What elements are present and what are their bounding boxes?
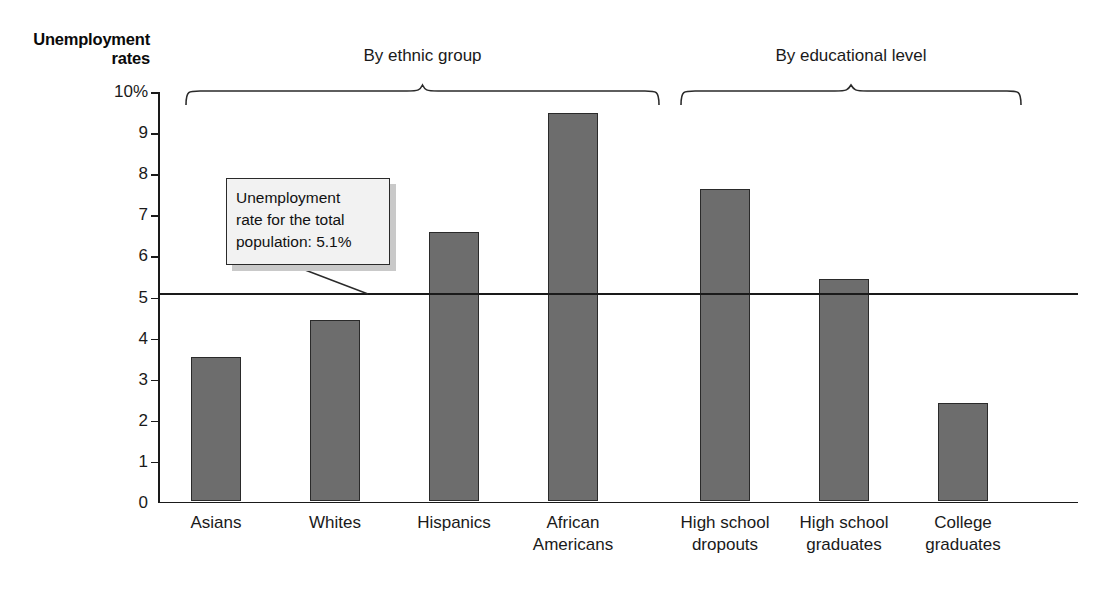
y-tick-label-7: 7 xyxy=(78,205,148,225)
y-tick-label-4: 4 xyxy=(78,329,148,349)
y-tick-mark-3 xyxy=(151,380,159,382)
category-label-college-graduates: College graduates xyxy=(893,512,1033,557)
y-tick-mark-1 xyxy=(151,462,159,464)
y-tick-mark-8 xyxy=(151,174,159,176)
y-axis-title-line-2: rates xyxy=(20,49,150,68)
callout-text: Unemployment rate for the total populati… xyxy=(236,187,384,253)
callout-text-line-1: Unemployment xyxy=(236,187,384,209)
y-axis-title-line-1: Unemployment xyxy=(20,30,150,49)
callout-text-line-3: population: 5.1% xyxy=(236,231,384,253)
category-label-african-americans: African Americans xyxy=(503,512,643,557)
y-axis-tick-labels: 10% 9 8 7 6 5 4 3 2 1 0 xyxy=(72,92,148,503)
y-tick-mark-5 xyxy=(151,298,159,300)
y-tick-label-1: 1 xyxy=(78,452,148,472)
group-label-education: By educational level xyxy=(680,46,1022,66)
bar-african-americans xyxy=(548,113,598,501)
category-label-college-graduates-line-1: College xyxy=(893,512,1033,534)
y-tick-mark-2 xyxy=(151,421,159,423)
bar-high-school-graduates xyxy=(819,279,869,501)
category-label-african-americans-line-2: Americans xyxy=(503,534,643,556)
y-tick-mark-4 xyxy=(151,339,159,341)
y-tick-label-2: 2 xyxy=(78,411,148,431)
y-tick-label-3: 3 xyxy=(78,370,148,390)
group-label-education-text: By educational level xyxy=(775,46,926,65)
x-axis-category-labels: Asians Whites Hispanics African American… xyxy=(158,512,1078,582)
y-axis-title: Unemployment rates xyxy=(20,30,150,69)
y-tick-mark-7 xyxy=(151,215,159,217)
y-tick-label-8: 8 xyxy=(78,164,148,184)
y-tick-mark-10 xyxy=(151,92,159,94)
group-label-ethnic: By ethnic group xyxy=(185,46,660,66)
total-population-reference-line xyxy=(158,293,1078,295)
group-label-ethnic-text: By ethnic group xyxy=(363,46,481,65)
y-tick-mark-9 xyxy=(151,133,159,135)
y-tick-label-6: 6 xyxy=(78,246,148,266)
callout-text-line-2: rate for the total xyxy=(236,209,384,231)
bar-asians xyxy=(191,357,241,501)
unemployment-rates-bar-chart: Unemployment rates By ethnic group By ed… xyxy=(0,0,1100,589)
bar-hispanics xyxy=(429,232,479,501)
x-axis-line xyxy=(158,502,1078,504)
bar-college-graduates xyxy=(938,403,988,502)
bar-whites xyxy=(310,320,360,501)
plot-area xyxy=(158,92,1078,503)
category-label-african-americans-line-1: African xyxy=(503,512,643,534)
reference-line-callout: Unemployment rate for the total populati… xyxy=(226,178,390,265)
y-tick-label-5: 5 xyxy=(78,288,148,308)
y-tick-label-10: 10% xyxy=(78,82,148,102)
y-tick-mark-6 xyxy=(151,256,159,258)
category-label-college-graduates-line-2: graduates xyxy=(893,534,1033,556)
bar-high-school-dropouts xyxy=(700,189,750,501)
y-tick-label-0: 0 xyxy=(78,493,148,513)
y-tick-label-9: 9 xyxy=(78,123,148,143)
